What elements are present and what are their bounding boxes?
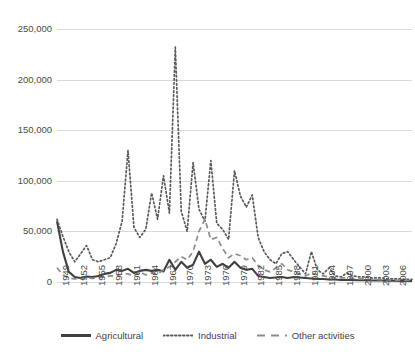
x-tick-label: 1970: [185, 265, 195, 286]
x-tick-label: 1988: [292, 265, 302, 286]
legend-swatch-solid: [61, 332, 91, 339]
legend-swatch-dotted: [163, 332, 193, 339]
x-tick-label: 1958: [114, 265, 124, 286]
x-tick-label: 1994: [327, 265, 337, 286]
legend-label: Agricultural: [96, 330, 144, 341]
chart-legend: AgriculturalIndustrialOther activities: [0, 326, 415, 344]
x-tick-label: 1997: [345, 265, 355, 286]
y-axis: 250,000200,000150,000100,00050,0000: [0, 0, 52, 352]
x-tick-label: 1964: [150, 265, 160, 286]
series-line-other-activities: [57, 219, 412, 280]
x-tick-label: 1991: [310, 265, 320, 286]
x-axis: 1949195219551958196119641967197019731976…: [57, 286, 412, 322]
x-tick-label: 2006: [398, 265, 408, 286]
x-tick-label: 1976: [221, 265, 231, 286]
x-tick-label: 1952: [79, 265, 89, 286]
y-tick-label: 200,000: [0, 75, 52, 85]
y-tick-label: 100,000: [0, 176, 52, 186]
legend-label: Industrial: [198, 330, 237, 341]
legend-item-agricultural[interactable]: Agricultural: [61, 330, 144, 341]
x-tick-label: 2000: [363, 265, 373, 286]
gridline: [57, 282, 412, 283]
x-tick-label: 1973: [203, 265, 213, 286]
series-line-agricultural: [57, 221, 412, 281]
x-tick-label: 1961: [132, 265, 142, 286]
x-tick-label: 1955: [97, 265, 107, 286]
y-tick-label: 150,000: [0, 125, 52, 135]
x-tick-label: 1982: [256, 265, 266, 286]
x-tick-label: 1979: [239, 265, 249, 286]
x-tick-label: 1967: [168, 265, 178, 286]
x-tick-label: 1985: [274, 265, 284, 286]
x-tick-label: 1949: [61, 265, 71, 286]
plot-area: [57, 29, 412, 282]
y-tick-label: 250,000: [0, 24, 52, 34]
line-chart: 250,000200,000150,000100,00050,0000 1949…: [0, 0, 415, 352]
series-line-industrial: [57, 47, 412, 279]
y-tick-label: 50,000: [0, 226, 52, 236]
series-layer: [57, 29, 412, 282]
legend-item-other-activities[interactable]: Other activities: [257, 330, 355, 341]
legend-item-industrial[interactable]: Industrial: [163, 330, 237, 341]
x-tick-label: 2003: [381, 265, 391, 286]
y-tick-label: 0: [0, 277, 52, 287]
legend-swatch-dashed: [257, 332, 287, 339]
legend-label: Other activities: [292, 330, 355, 341]
